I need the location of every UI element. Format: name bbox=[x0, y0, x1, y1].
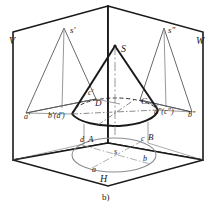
plane-label-H: H bbox=[100, 174, 107, 184]
label-b: b bbox=[143, 155, 147, 163]
label-S: S bbox=[121, 44, 126, 54]
label-c-prime: c' bbox=[88, 89, 93, 97]
label-s-prime: s' bbox=[70, 26, 75, 35]
label-B: B bbox=[148, 133, 154, 142]
descriptive-geometry-figure bbox=[0, 0, 216, 211]
plane-label-W: W bbox=[196, 36, 204, 46]
figure-caption: b) bbox=[102, 192, 110, 202]
label-b-prime-d-prime: b'(d') bbox=[48, 112, 65, 120]
label-c: c bbox=[141, 135, 145, 143]
apex-marker-S bbox=[113, 44, 116, 47]
label-b-double-prime: bʺ bbox=[188, 111, 195, 119]
profile-plane-W bbox=[108, 6, 203, 160]
label-a-double-prime-c-double-prime: aʺ(cʺ) bbox=[154, 108, 174, 116]
label-A: A bbox=[88, 135, 94, 144]
label-a-prime: a' bbox=[24, 113, 30, 121]
plane-label-V: V bbox=[9, 36, 15, 46]
label-s-double-prime: sʺ bbox=[168, 26, 175, 35]
label-a: a bbox=[92, 166, 96, 174]
label-s: s bbox=[114, 148, 117, 156]
label-C: C bbox=[141, 97, 147, 106]
label-D: D bbox=[95, 99, 102, 108]
label-d: d bbox=[80, 136, 84, 144]
